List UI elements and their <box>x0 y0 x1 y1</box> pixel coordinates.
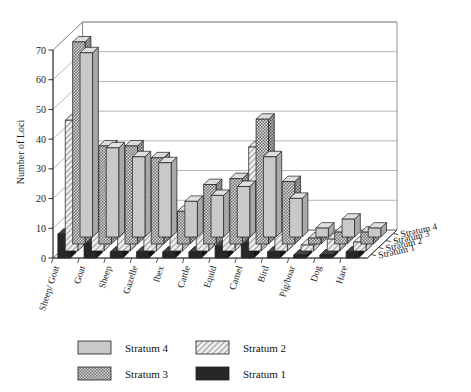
y-tick-labels: 010203040506070 <box>36 45 53 264</box>
bar <box>159 157 177 237</box>
legend-item: Stratum 4 <box>78 341 169 354</box>
y-tick-label: 70 <box>36 45 46 56</box>
legend-swatch <box>78 367 111 380</box>
y-tick-label: 40 <box>36 134 46 145</box>
y-tick-label: 30 <box>36 163 46 174</box>
bar <box>211 190 229 237</box>
bar-chart-3d: 010203040506070 Sheep/ GoatGoatSheepGaze… <box>0 0 471 392</box>
category-labels: Sheep/ GoatGoatSheepGazelleIbexCattleEqu… <box>37 258 349 312</box>
category-label: Sheep <box>97 264 114 289</box>
y-tick-label: 50 <box>36 104 46 115</box>
category-label: Pig/boar <box>277 264 297 299</box>
category-label: Bird <box>256 264 271 283</box>
category-label: Ibex <box>151 264 166 283</box>
category-label: Hare <box>334 265 349 286</box>
legend: Stratum 4Stratum 2Stratum 3Stratum 1 <box>78 341 286 380</box>
category-label: Dog <box>309 264 324 283</box>
category-label: Goat <box>72 264 87 285</box>
y-tick-label: 20 <box>36 193 46 204</box>
bar <box>132 151 150 237</box>
bar <box>106 142 124 237</box>
y-tick-label: 0 <box>41 253 46 264</box>
legend-item: Stratum 3 <box>78 367 169 380</box>
legend-label: Stratum 1 <box>243 368 286 380</box>
legend-label: Stratum 2 <box>243 342 286 354</box>
legend-label: Stratum 3 <box>125 368 169 380</box>
y-tick-label: 10 <box>36 223 46 234</box>
bar <box>80 47 98 237</box>
legend-item: Stratum 2 <box>196 341 286 354</box>
legend-swatch <box>78 341 111 354</box>
legend-label: Stratum 4 <box>125 342 169 354</box>
bar <box>342 214 360 237</box>
category-label: Cattle <box>176 265 193 290</box>
category-label: Gazelle <box>121 265 139 296</box>
y-axis-title: Number of Loci <box>15 120 26 185</box>
y-tick-label: 60 <box>36 74 46 85</box>
category-label: Equid <box>202 264 219 289</box>
bar <box>263 151 281 237</box>
legend-item: Stratum 1 <box>196 367 286 380</box>
legend-swatch <box>196 341 229 354</box>
bar <box>290 193 308 237</box>
chart-figure: 010203040506070 Sheep/ GoatGoatSheepGaze… <box>0 0 471 392</box>
category-label: Camel <box>227 264 244 291</box>
bar <box>237 181 255 237</box>
bar <box>185 196 203 237</box>
legend-swatch <box>196 367 229 380</box>
category-label: Sheep/ Goat <box>37 264 61 312</box>
